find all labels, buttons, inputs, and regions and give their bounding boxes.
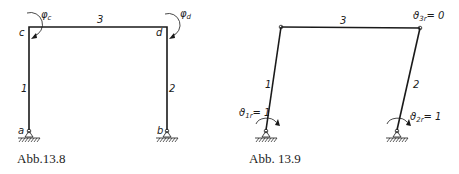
member-label-1: 1 [21, 83, 27, 94]
caption-abb-13-8: Abb.13.8 [17, 151, 65, 166]
arrowhead-1r-icon [275, 119, 280, 126]
rotation-label-phi-c: φc [41, 9, 52, 22]
figure-13-9: 3 1 2 ϑ3r= 0 ϑ1r= 1 ϑ2r= 1 Abb. 13.9 [239, 10, 444, 166]
rotation-label-phi-d: φd [180, 8, 192, 21]
arrowhead-d-icon [169, 33, 175, 39]
frame-members [29, 27, 167, 130]
node-label-d: d [156, 27, 163, 38]
arrowhead-c-icon [31, 33, 37, 39]
frame-diagrams: c d a b 1 2 3 φc φd Abb.13.8 [0, 0, 459, 174]
member-label-2: 2 [169, 83, 175, 94]
figure-13-8: c d a b 1 2 3 φc φd Abb.13.8 [17, 8, 192, 166]
annotation-theta-2r: ϑ2r= 1 [410, 111, 441, 124]
pin-support-left-icon [255, 129, 277, 142]
pin-support-right-icon [386, 129, 408, 142]
annotation-theta-3r: ϑ3r= 0 [413, 10, 444, 23]
member-label-3: 3 [340, 15, 346, 26]
node-label-a: a [18, 125, 24, 136]
rotation-arrow-2r-icon [387, 118, 407, 124]
caption-abb-13-9: Abb. 13.9 [249, 151, 301, 166]
rotation-arrow-1r-icon [256, 118, 276, 124]
member-label-1: 1 [265, 79, 271, 90]
node-label-b: b [157, 125, 163, 136]
node-label-c: c [19, 27, 25, 38]
member-3 [281, 27, 420, 28]
member-label-2: 2 [413, 79, 419, 90]
member-label-3: 3 [97, 14, 103, 25]
